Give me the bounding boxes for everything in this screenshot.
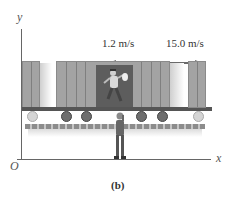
wheel (193, 111, 204, 122)
runner-velocity-label: 1.2 m/s (102, 37, 134, 49)
wheel (157, 111, 168, 122)
boxcar-door (96, 65, 133, 107)
runner-velocity-arrow (108, 52, 156, 56)
wheel (61, 111, 72, 122)
x-axis-label: x (216, 151, 221, 166)
figure-caption: (b) (111, 179, 124, 191)
origin-label: O (10, 159, 19, 174)
train-velocity-label: 15.0 m/s (166, 37, 204, 49)
motion-blur-right (170, 63, 184, 107)
running-man-icon (96, 65, 133, 107)
standing-observer-icon (113, 111, 127, 159)
right-boxcar (188, 61, 206, 108)
x-axis (17, 159, 211, 160)
wheel (136, 111, 147, 122)
train-velocity-arrow (155, 52, 203, 58)
wheel (81, 111, 92, 122)
y-axis-label: y (17, 10, 22, 25)
motion-blur (40, 63, 52, 107)
wheel (27, 111, 38, 122)
main-boxcar (56, 61, 170, 108)
left-boxcar (22, 61, 40, 108)
